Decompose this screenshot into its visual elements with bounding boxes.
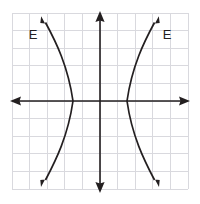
left-branch-arrow-top xyxy=(40,16,47,28)
left-branch-label: E xyxy=(29,27,38,42)
right-branch-label: E xyxy=(163,27,172,42)
coordinate-graph: E E xyxy=(0,0,200,204)
right-branch-arrow-top xyxy=(152,16,159,28)
y-axis xyxy=(95,11,104,193)
y-axis-arrow-down xyxy=(95,182,104,193)
hyperbola-figure: E E xyxy=(0,0,200,204)
